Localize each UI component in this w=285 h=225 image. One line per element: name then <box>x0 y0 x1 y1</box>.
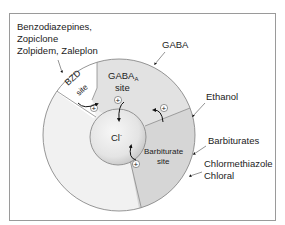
benzodiazepines-label: Benzodiazepines, <box>17 21 92 32</box>
ethanol-label: Ethanol <box>206 91 238 102</box>
chlormethiazole-label: Chlormethiazole <box>204 158 273 169</box>
svg-text:+: + <box>161 104 166 113</box>
svg-text:+: + <box>133 160 138 169</box>
gaba-receptor-diagram: Cl- BZD site GABAA site Barbiturate site… <box>0 0 285 225</box>
gaba-label: GABA <box>162 39 189 50</box>
gabaa-site-label: GABAA <box>108 70 138 82</box>
zopiclone-label: Zopiclone <box>17 33 58 44</box>
barbiturate-site-label-line2: site <box>157 157 170 166</box>
zolpidem-zaleplon-label: Zolpidem, Zaleplon <box>17 45 98 56</box>
chloral-label: Chloral <box>204 170 234 181</box>
barbiturates-label: Barbiturates <box>208 135 259 146</box>
barbiturate-site-label: Barbiturate <box>144 147 184 156</box>
svg-text:+: + <box>115 96 120 105</box>
gabaa-site-label-line2: site <box>115 82 130 93</box>
